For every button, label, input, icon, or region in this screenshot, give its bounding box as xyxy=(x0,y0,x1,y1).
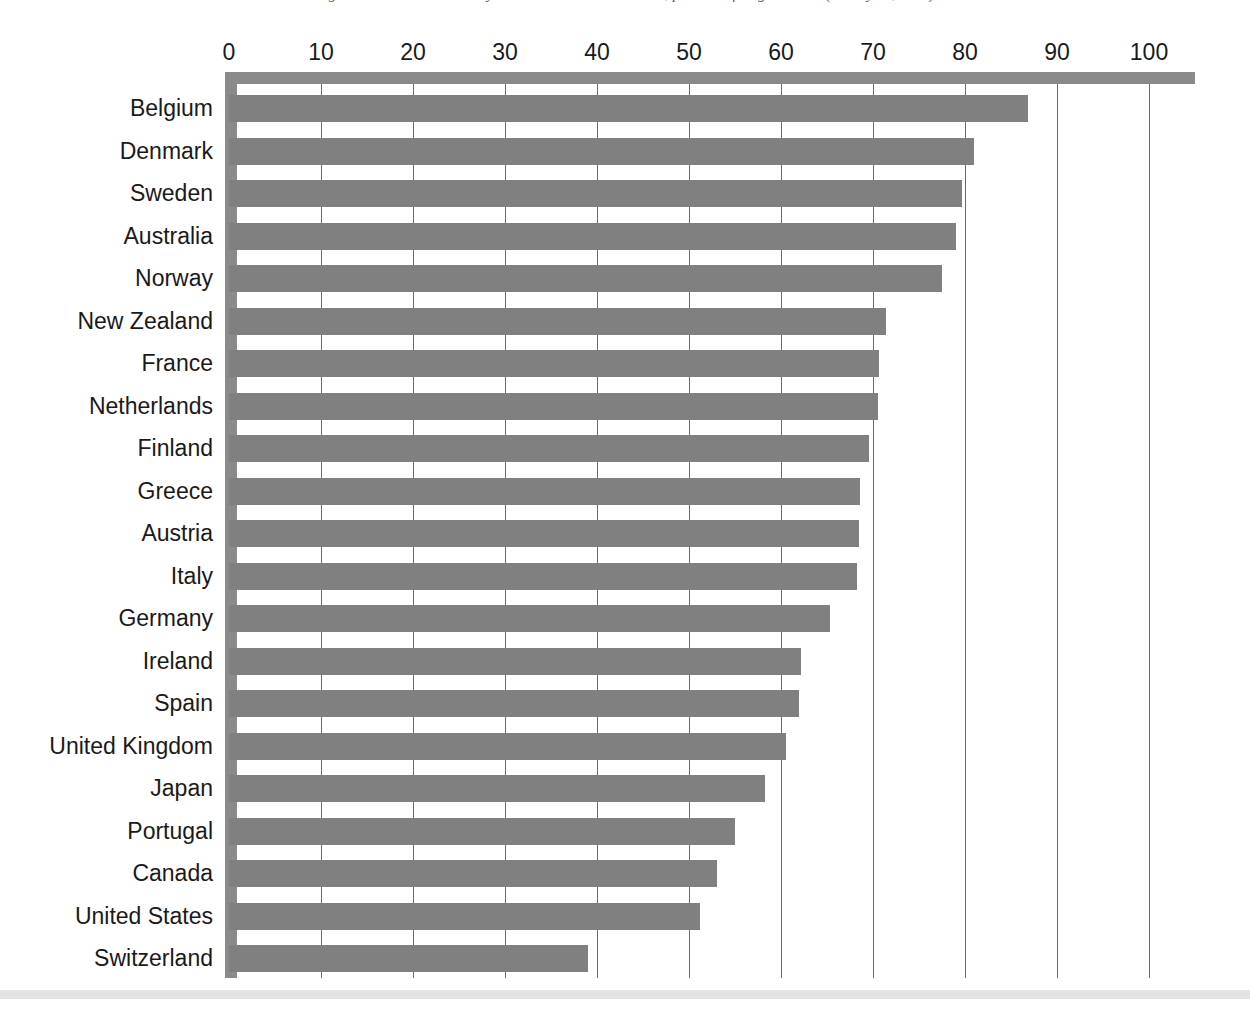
y-category-label: Switzerland xyxy=(0,945,213,972)
y-category-label: New Zealand xyxy=(0,308,213,335)
bar-row xyxy=(229,84,1195,127)
x-tick-label: 0 xyxy=(199,38,259,66)
x-tick-label: 80 xyxy=(935,38,995,66)
bar[interactable] xyxy=(229,223,956,250)
bar-row xyxy=(229,807,1195,850)
x-tick-label: 100 xyxy=(1119,38,1179,66)
x-tick-label: 70 xyxy=(843,38,903,66)
bar[interactable] xyxy=(229,478,860,505)
y-category-label: Belgium xyxy=(0,95,213,122)
bar-row xyxy=(229,509,1195,552)
y-category-label: Austria xyxy=(0,520,213,547)
bar-row xyxy=(229,127,1195,170)
x-tick-label: 60 xyxy=(751,38,811,66)
bar-row xyxy=(229,934,1195,977)
y-category-label: Finland xyxy=(0,435,213,462)
bar[interactable] xyxy=(229,265,942,292)
bar[interactable] xyxy=(229,520,859,547)
y-category-label: Portugal xyxy=(0,818,213,845)
y-category-label: Italy xyxy=(0,563,213,590)
bar[interactable] xyxy=(229,945,588,972)
y-category-label: Ireland xyxy=(0,648,213,675)
bar-row xyxy=(229,679,1195,722)
bar[interactable] xyxy=(229,563,857,590)
bar[interactable] xyxy=(229,350,879,377)
bar-row xyxy=(229,424,1195,467)
x-tick-label: 20 xyxy=(383,38,443,66)
bar[interactable] xyxy=(229,818,735,845)
horizontal-bar-chart: 0102030405060708090100 BelgiumDenmarkSwe… xyxy=(0,0,1250,1020)
bar[interactable] xyxy=(229,435,869,462)
bar[interactable] xyxy=(229,733,786,760)
bar-row xyxy=(229,382,1195,425)
y-category-label: Japan xyxy=(0,775,213,802)
y-axis-category-labels: BelgiumDenmarkSwedenAustraliaNorwayNew Z… xyxy=(0,84,213,978)
y-category-label: Spain xyxy=(0,690,213,717)
x-tick-label: 40 xyxy=(567,38,627,66)
bar-row xyxy=(229,297,1195,340)
x-axis-tick-labels: 0102030405060708090100 xyxy=(0,38,1250,66)
bar-row xyxy=(229,637,1195,680)
bar[interactable] xyxy=(229,648,801,675)
bar-row xyxy=(229,594,1195,637)
bar-row xyxy=(229,212,1195,255)
plot-top-axis-band xyxy=(225,72,1195,84)
y-category-label: Sweden xyxy=(0,180,213,207)
bar[interactable] xyxy=(229,138,974,165)
bar[interactable] xyxy=(229,775,765,802)
x-tick-label: 30 xyxy=(475,38,535,66)
y-category-label: Australia xyxy=(0,223,213,250)
x-tick-label: 90 xyxy=(1027,38,1087,66)
bar[interactable] xyxy=(229,308,886,335)
x-tick-label: 50 xyxy=(659,38,719,66)
y-category-label: Germany xyxy=(0,605,213,632)
bar-row xyxy=(229,764,1195,807)
bar[interactable] xyxy=(229,903,700,930)
y-category-label: United States xyxy=(0,903,213,930)
x-tick-label: 10 xyxy=(291,38,351,66)
bar-row xyxy=(229,254,1195,297)
plot-area xyxy=(225,72,1195,978)
bar-row xyxy=(229,892,1195,935)
bar-row xyxy=(229,169,1195,212)
bar-row xyxy=(229,339,1195,382)
y-category-label: Norway xyxy=(0,265,213,292)
bar[interactable] xyxy=(229,605,830,632)
bar[interactable] xyxy=(229,95,1028,122)
y-category-label: United Kingdom xyxy=(0,733,213,760)
bar-row xyxy=(229,467,1195,510)
bar[interactable] xyxy=(229,180,962,207)
y-category-label: Netherlands xyxy=(0,393,213,420)
bar-row xyxy=(229,722,1195,765)
bar-row xyxy=(229,552,1195,595)
footer-rule xyxy=(0,990,1250,999)
bar[interactable] xyxy=(229,860,717,887)
y-category-label: Denmark xyxy=(0,138,213,165)
y-category-label: Canada xyxy=(0,860,213,887)
y-category-label: Greece xyxy=(0,478,213,505)
bar[interactable] xyxy=(229,690,799,717)
bar-row xyxy=(229,849,1195,892)
bar[interactable] xyxy=(229,393,878,420)
y-category-label: France xyxy=(0,350,213,377)
bar-series xyxy=(229,84,1195,978)
